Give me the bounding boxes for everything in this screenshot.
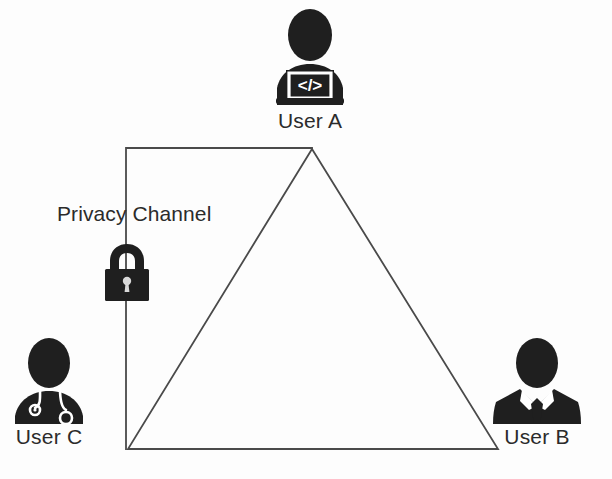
actor-user-c[interactable]: User C: [4, 336, 94, 449]
doctor-stethoscope-icon: [4, 336, 94, 424]
trust-triangle: [128, 149, 498, 449]
actor-user-a[interactable]: </> User A: [262, 8, 358, 133]
privacy-channel-label: Privacy Channel: [57, 202, 211, 226]
actor-label-user-a: User A: [278, 109, 342, 133]
actor-user-b[interactable]: User B: [492, 336, 582, 449]
padlock-icon: [99, 238, 155, 304]
businessman-suit-tie-icon: [492, 336, 582, 424]
actor-label-user-c: User C: [16, 425, 83, 449]
actor-label-user-b: User B: [504, 425, 569, 449]
developer-with-laptop-icon: </>: [262, 8, 358, 108]
diagram-canvas: </> User A User C: [0, 0, 612, 479]
code-glyph: </>: [298, 76, 323, 95]
